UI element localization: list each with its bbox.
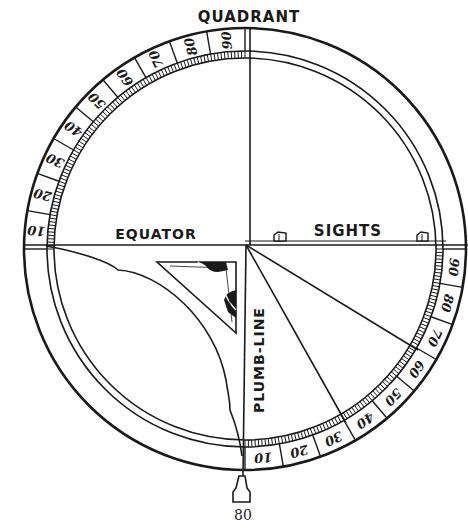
scale-number-ul: 20 bbox=[32, 185, 54, 204]
scale-ticks-upper-left bbox=[47, 51, 245, 249]
label-sights: SIGHTS bbox=[314, 222, 382, 240]
scale-dividers bbox=[24, 28, 466, 470]
corner-ornament bbox=[157, 262, 236, 333]
scale-number-ul: 90 bbox=[218, 31, 235, 50]
outer-circle bbox=[24, 28, 466, 470]
title-quadrant: QUADRANT bbox=[198, 8, 300, 26]
scale-number-lr: 80 bbox=[438, 293, 457, 314]
scale-number-lr: 10 bbox=[254, 449, 273, 466]
quadrant-diagram: 102030405060708090102030405060708090 QUA… bbox=[0, 0, 468, 529]
scale-number-ul: 80 bbox=[181, 36, 200, 57]
page-number: 80 bbox=[234, 507, 252, 523]
scale-number-lr: 20 bbox=[289, 442, 311, 461]
label-equator: EQUATOR bbox=[115, 226, 196, 242]
radial-line-60 bbox=[246, 245, 418, 350]
label-plumb-line: PLUMB-LINE bbox=[251, 307, 267, 413]
scale-number-ul: 10 bbox=[27, 222, 46, 239]
plumb-bob bbox=[233, 476, 250, 502]
sight-left bbox=[274, 232, 286, 241]
sight-right bbox=[417, 232, 428, 241]
scale-number-lr: 70 bbox=[424, 326, 445, 349]
scale-number-lr: 90 bbox=[445, 258, 462, 277]
scale-number-lr: 30 bbox=[322, 428, 345, 449]
